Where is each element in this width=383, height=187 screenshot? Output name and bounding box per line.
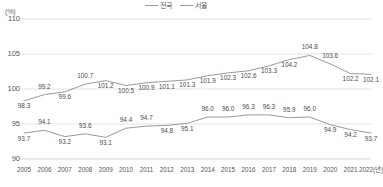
data-label-series-0: 102.2 <box>343 76 359 82</box>
x-axis-tick-label: 2007 <box>58 167 72 173</box>
x-axis-tick-label: 2016 <box>242 167 256 173</box>
y-axis-tick-label: 110 <box>0 15 20 23</box>
x-axis-tick-label: 2018 <box>282 167 296 173</box>
x-axis-tick-label: 2011 <box>140 167 154 173</box>
x-axis-tick-label: 2020 <box>323 167 337 173</box>
x-axis-tick-label: 2012 <box>160 167 174 173</box>
x-axis-tick-label: 2019 <box>303 167 317 173</box>
data-label-series-1: 96.0 <box>201 106 213 112</box>
data-label-series-1: 93.2 <box>59 139 71 145</box>
x-axis-tick-label: 2013 <box>180 167 194 173</box>
data-label-series-1: 94.9 <box>324 127 336 133</box>
data-label-series-1: 93.7 <box>18 136 30 142</box>
data-label-series-0: 104.2 <box>281 62 297 68</box>
data-label-series-0: 103.3 <box>261 68 277 74</box>
data-label-series-1: 96.3 <box>263 104 275 110</box>
data-label-series-0: 101.2 <box>98 83 114 89</box>
y-axis-tick-label: 100 <box>0 85 20 93</box>
data-label-series-0: 100.5 <box>118 88 134 94</box>
data-label-series-0: 102.1 <box>363 77 379 83</box>
data-label-series-1: 96.3 <box>242 104 254 110</box>
data-label-series-0: 98.3 <box>18 103 30 109</box>
data-label-series-0: 103.6 <box>322 53 338 59</box>
x-axis-tick-label: 2008 <box>78 167 92 173</box>
x-axis-tick-label: 2006 <box>37 167 51 173</box>
data-label-series-1: 96.0 <box>222 106 234 112</box>
data-label-series-1: 95.1 <box>181 126 193 132</box>
y-axis-tick-label: 105 <box>0 50 20 58</box>
data-label-series-1: 94.1 <box>38 119 50 125</box>
data-label-series-0: 100.7 <box>77 73 93 79</box>
data-label-series-0: 101.3 <box>179 82 195 88</box>
x-axis-tick-label: 2010 <box>119 167 133 173</box>
x-axis-tick-label: 2009 <box>99 167 113 173</box>
data-label-series-0: 99.2 <box>38 84 50 90</box>
series-line-1 <box>24 115 371 137</box>
x-axis-tick-label: 2021 <box>344 167 358 173</box>
data-label-series-1: 94.4 <box>120 117 132 123</box>
data-label-series-1: 94.7 <box>140 115 152 121</box>
x-axis-tick-label: 2015 <box>221 167 235 173</box>
data-label-series-1: 93.1 <box>99 140 111 146</box>
data-label-series-0: 102.6 <box>241 73 257 79</box>
series-line-0 <box>24 55 371 101</box>
data-label-series-0: 99.6 <box>59 94 71 100</box>
x-axis-tick-label: 2022(년) <box>359 167 383 173</box>
data-label-series-1: 95.9 <box>283 107 295 113</box>
x-axis-tick-label: 2014 <box>201 167 215 173</box>
data-label-series-1: 93.6 <box>79 123 91 129</box>
data-label-series-1: 94.2 <box>344 132 356 138</box>
data-label-series-1: 96.0 <box>304 106 316 112</box>
data-label-series-0: 100.9 <box>138 85 154 91</box>
data-label-series-1: 93.7 <box>365 136 377 142</box>
data-label-series-0: 101.1 <box>159 84 175 90</box>
data-label-series-0: 102.3 <box>220 75 236 81</box>
data-label-series-1: 94.8 <box>161 128 173 134</box>
x-axis-tick-label: 2017 <box>262 167 276 173</box>
data-label-series-0: 104.8 <box>302 44 318 50</box>
y-axis-tick-label: 95 <box>0 120 20 128</box>
y-axis-tick-label: 90 <box>0 155 20 163</box>
data-label-series-0: 101.9 <box>200 78 216 84</box>
x-axis-tick-label: 2005 <box>17 167 31 173</box>
